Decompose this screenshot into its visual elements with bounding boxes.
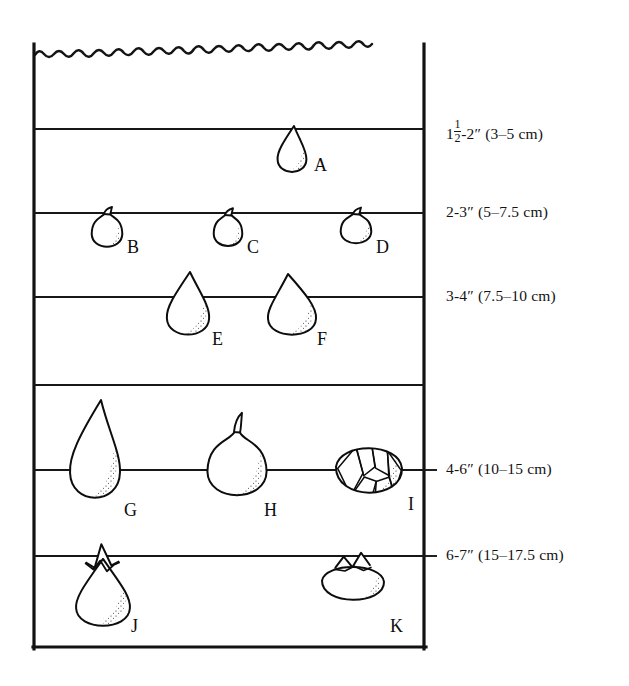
bulb-letter-a: A: [314, 156, 327, 174]
bulb-letter-f: F: [317, 330, 327, 348]
bulb-letter-h: H: [264, 501, 277, 519]
bulb-g: [70, 400, 120, 503]
bulb-c: [214, 208, 243, 247]
depth-label-d1: 112-2″ (3–5 cm): [446, 119, 543, 145]
bulb-h: [207, 413, 266, 501]
bulb-letter-k: K: [390, 617, 403, 635]
soil-surface-line: [35, 41, 372, 57]
bulb-letter-b: B: [127, 238, 139, 256]
bulb-group: [70, 126, 402, 626]
depth-label-d5: 4-6″ (10–15 cm): [446, 460, 552, 478]
bulb-letter-e: E: [212, 330, 223, 348]
bulb-tip: [234, 413, 242, 433]
bulb-tip: [225, 208, 233, 215]
bulb-f: [268, 274, 316, 337]
figure-canvas: [0, 0, 629, 686]
soil-box-frame: [33, 44, 426, 649]
bulb-letter-d: D: [376, 238, 389, 256]
bulb-outline: [341, 213, 372, 243]
bulb-letter-i: I: [408, 495, 414, 513]
bulb-letter-c: C: [247, 238, 259, 256]
bulb-e: [167, 272, 209, 337]
bulb-i: [336, 438, 402, 501]
bulb-k: [322, 553, 384, 607]
depth-label-d2: 2-3″ (5–7.5 cm): [446, 203, 548, 221]
depth-label-d6: 6-7″ (15–17.5 cm): [446, 546, 564, 564]
depth-label-d3: 3-4″ (7.5–10 cm): [446, 287, 556, 305]
bulb-planting-depth-figure: 112-2″ (3–5 cm)2-3″ (5–7.5 cm)3-4″ (7.5–…: [0, 0, 629, 686]
bulb-letter-g: G: [124, 501, 137, 519]
bulb-tip: [104, 207, 112, 215]
bulb-a: [278, 126, 307, 174]
bulb-letter-j: J: [131, 617, 138, 635]
bulb-tip: [353, 208, 361, 215]
